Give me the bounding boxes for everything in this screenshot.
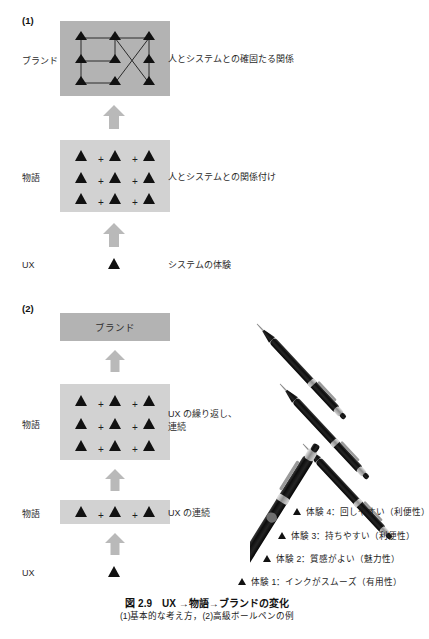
plus-sign: + [98,198,104,208]
experience-label-4: 体験 4：回しやすい（利便性） [306,507,429,517]
tier-desc-story-2a: UX の繰り返し、 連続 [168,408,237,434]
up-arrow-icon-1 [102,104,126,130]
triangle-icon [75,440,87,451]
triangle-icon [75,172,87,183]
section-1-marker: (1) [22,15,34,26]
plus-sign: + [98,445,104,455]
tier-label-story-2b: 物語 [22,507,40,520]
tier-label-ux-2: UX [22,568,35,578]
figure-caption-main: 図 2.9 UX →物語→ブランドの変化 [0,595,414,610]
plus-sign: + [132,400,138,410]
up-arrow-icon-4 [104,468,126,492]
plus-sign: + [132,155,138,165]
plus-sign: + [132,511,138,521]
triangle-icon [143,150,155,161]
brand-network-panel [60,21,170,96]
plus-sign: + [98,423,104,433]
brand-box-label: ブランド [60,320,170,334]
plus-sign: + [132,445,138,455]
up-arrow-icon-2 [102,222,126,248]
experience-item-1: 体験 1：インクがスムーズ（有用性） [238,575,402,587]
triangle-icon [109,395,121,406]
triangle-icon [75,506,87,517]
brand-box-2: ブランド [60,313,170,341]
plus-sign: + [98,155,104,165]
triangle-icon [143,440,155,451]
experience-label-1: 体験 1：インクがスムーズ（有用性） [251,577,402,587]
experience-label-3: 体験 3：持ちやすい（利便性） [291,531,415,541]
triangle-bullet-icon [263,555,271,562]
triangle-bullet-icon [293,508,301,515]
plus-sign: + [132,177,138,187]
triangle-icon [109,418,121,429]
tier-desc-story-1: 人とシステムとの関係付け [168,171,276,184]
brand-network-graph [60,21,170,96]
triangle-icon [143,172,155,183]
triangle-bullet-icon [238,578,246,585]
plus-sign: + [98,400,104,410]
triangle-icon-ux-2 [108,566,120,577]
tier-label-story-2a: 物語 [22,418,40,431]
triangle-bullet-icon [278,532,286,539]
experience-label-2: 体験 2：質感がよい（魅力性） [276,554,400,564]
ballpoint-pen-illustration [250,300,414,590]
up-arrow-icon-3 [104,349,126,373]
triangle-icon [75,150,87,161]
tier-label-brand-1: ブランド [22,54,58,67]
triangle-icon [109,440,121,451]
triangle-icon [109,172,121,183]
triangle-icon [143,193,155,204]
triangle-icon [109,150,121,161]
triangle-icon [143,418,155,429]
plus-sign: + [132,198,138,208]
tier-desc-brand-1: 人とシステムとの確固たる関係 [168,53,294,66]
section-2-marker: (2) [22,303,34,314]
triangle-icon [143,506,155,517]
story-panel-1: + + + + + + [60,140,170,212]
tier-label-story-1: 物語 [22,171,40,184]
plus-sign: + [132,423,138,433]
experience-item-3: 体験 3：持ちやすい（利便性） [278,529,415,541]
experience-item-4: 体験 4：回しやすい（利便性） [293,505,429,517]
triangle-icon [109,193,121,204]
figure-caption-sub: (1)基本的な考え方，(2)高級ボールペンの例 [0,609,414,621]
triangle-icon [75,193,87,204]
triangle-icon [75,418,87,429]
triangle-icon [143,395,155,406]
story-panel-3: + + [60,500,170,524]
tier-label-ux-1: UX [22,260,35,270]
triangle-icon [109,506,121,517]
tier-desc-ux-1: システムの体験 [168,259,231,272]
experience-item-2: 体験 2：質感がよい（魅力性） [263,552,400,564]
triangle-icon [75,395,87,406]
plus-sign: + [98,511,104,521]
tier-desc-story-2b: UX の連続 [168,507,210,520]
up-arrow-icon-5 [104,532,126,556]
story-panel-2: + + + + + + [60,384,170,460]
triangle-icon-ux-1 [108,258,120,269]
plus-sign: + [98,177,104,187]
